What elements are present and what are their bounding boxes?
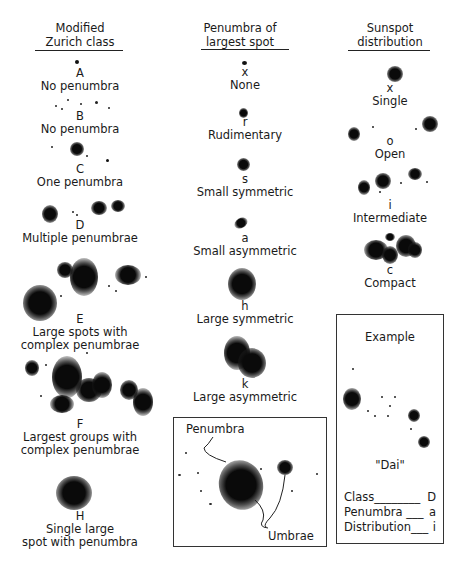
example-row-class: Class________D xyxy=(344,491,436,504)
example-row-distribution: Distribution___i xyxy=(344,521,436,534)
example-row-label: Class xyxy=(344,490,374,504)
distribution-label: Intermediate xyxy=(335,212,445,225)
example-row-leader: ___ xyxy=(406,505,423,519)
column-header-line1: Sunspot xyxy=(335,22,445,36)
example-row-leader: ___ xyxy=(411,520,428,534)
example-row-value: i xyxy=(433,521,436,534)
distribution-label: Compact xyxy=(335,277,445,290)
header-rule xyxy=(348,50,430,51)
distribution-label: Single xyxy=(335,95,445,108)
column-header-line2: distribution xyxy=(335,36,445,50)
example-row-leader: ________ xyxy=(374,490,420,504)
example-row-value: D xyxy=(427,491,436,504)
example-row-penumbra: Penumbra ___a xyxy=(344,506,436,519)
example-title: Example xyxy=(336,331,444,344)
example-designation: "Dai" xyxy=(336,459,444,472)
distribution-label: Open xyxy=(335,148,445,161)
sunspot-icon xyxy=(387,66,403,82)
example-row-value: a xyxy=(429,506,436,519)
example-row-label: Penumbra xyxy=(344,505,402,519)
example-row-label: Distribution xyxy=(344,520,411,534)
